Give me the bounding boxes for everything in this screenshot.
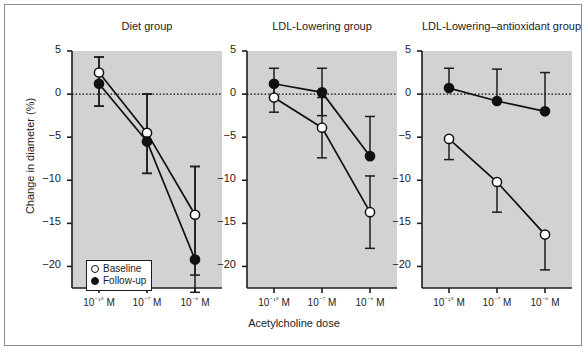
datapoint-followup-2-0: [444, 83, 453, 92]
datapoint-followup-2-1: [492, 96, 501, 105]
y-tick-label-2-0: 5: [381, 43, 411, 55]
datapoint-baseline-0-2: [190, 210, 199, 219]
legend-label: Baseline: [103, 263, 141, 275]
datapoint-followup-0-1: [142, 137, 151, 146]
datapoint-followup-0-0: [94, 79, 103, 88]
datapoint-baseline-2-1: [492, 177, 501, 186]
datapoint-baseline-0-1: [142, 128, 151, 137]
x-tick-label-0-1: 10⁻⁷ M: [133, 296, 162, 308]
legend: BaselineFollow-up: [86, 260, 152, 291]
y-tick-label-0-5: −20: [31, 258, 61, 270]
datapoint-baseline-2-0: [444, 134, 453, 143]
x-tick-label-2-2: 10⁻⁶ M: [530, 296, 559, 308]
x-tick-label-2-0: 10⁻¹⁸ M: [433, 296, 465, 308]
filled-circle-icon: [91, 277, 99, 285]
open-circle-icon: [91, 265, 99, 273]
x-tick-label-1-2: 10⁻⁶ M: [355, 296, 384, 308]
x-tick-label-1-0: 10⁻¹⁸ M: [258, 296, 290, 308]
y-tick-label-2-3: −10: [381, 172, 411, 184]
datapoint-followup-2-2: [540, 107, 549, 116]
x-tick-label-0-0: 10⁻¹⁸ M: [83, 296, 115, 308]
y-tick-label-0-0: 5: [31, 43, 61, 55]
y-tick-label-2-2: −5: [381, 129, 411, 141]
x-tick-label-1-1: 10⁻⁷ M: [308, 296, 337, 308]
y-tick-label-1-4: −15: [206, 215, 236, 227]
y-tick-label-0-4: −15: [31, 215, 61, 227]
y-tick-label-0-3: −10: [31, 172, 61, 184]
figure-canvas: Change in diameter (%) Acetylcholine dos…: [0, 0, 588, 352]
y-tick-label-0-1: 0: [31, 86, 61, 98]
datapoint-followup-1-2: [365, 152, 374, 161]
y-tick-label-2-5: −20: [381, 258, 411, 270]
datapoint-followup-1-1: [317, 88, 326, 97]
panel-title-1: LDL-Lowering group: [247, 20, 397, 32]
datapoint-baseline-1-0: [269, 93, 278, 102]
legend-label: Follow-up: [103, 275, 146, 287]
datapoint-followup-1-0: [269, 79, 278, 88]
y-tick-label-1-1: 0: [206, 86, 236, 98]
y-tick-label-1-0: 5: [206, 43, 236, 55]
datapoint-baseline-1-2: [365, 208, 374, 217]
y-tick-label-1-5: −20: [206, 258, 236, 270]
legend-item-baseline: Baseline: [91, 263, 146, 275]
y-tick-label-2-1: 0: [381, 86, 411, 98]
datapoint-baseline-2-2: [540, 230, 549, 239]
y-tick-label-1-2: −5: [206, 129, 236, 141]
x-tick-label-2-1: 10⁻⁷ M: [483, 296, 512, 308]
panel-title-2: LDL-Lowering–antioxidant group: [422, 20, 572, 32]
y-tick-label-1-3: −10: [206, 172, 236, 184]
panel-title-0: Diet group: [72, 20, 222, 32]
datapoint-baseline-1-1: [317, 123, 326, 132]
datapoint-baseline-0-0: [94, 68, 103, 77]
datapoint-followup-0-2: [190, 255, 199, 264]
x-tick-label-0-2: 10⁻⁶ M: [180, 296, 209, 308]
legend-item-follow-up: Follow-up: [91, 275, 146, 287]
y-tick-label-0-2: −5: [31, 129, 61, 141]
y-tick-label-2-4: −15: [381, 215, 411, 227]
